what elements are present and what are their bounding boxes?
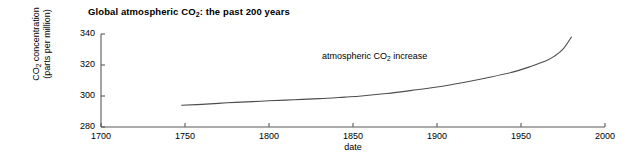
y-tick-label: 320 bbox=[65, 59, 95, 69]
series-annotation: atmospheric CO2 increase bbox=[322, 51, 427, 61]
data-series-line bbox=[182, 37, 572, 105]
x-axis-title-text: date bbox=[344, 142, 362, 152]
x-tick-label: 1750 bbox=[165, 131, 205, 141]
series-annotation-subscript: 2 bbox=[387, 55, 391, 62]
y-axis-title-line1: CO2 concentration bbox=[31, 7, 43, 81]
y-axis-title-line2: (parts per million) bbox=[42, 9, 54, 79]
plot-area: CO2 concentration (parts per million) da… bbox=[0, 0, 642, 160]
y-tick-label: 300 bbox=[65, 90, 95, 100]
x-tick-label: 1700 bbox=[81, 131, 121, 141]
series-annotation-post: increase bbox=[391, 51, 428, 61]
y-axis-title-subscript: 2 bbox=[35, 64, 42, 68]
x-tick-label: 1900 bbox=[417, 131, 457, 141]
y-axis-title: CO2 concentration (parts per million) bbox=[28, 0, 56, 124]
series-group bbox=[182, 37, 572, 105]
x-axis-title: date bbox=[0, 142, 642, 152]
series-annotation-pre: atmospheric CO bbox=[322, 51, 387, 61]
y-axis-title-pre: CO bbox=[31, 67, 41, 81]
x-tick-label: 1950 bbox=[501, 131, 541, 141]
y-tick-label: 340 bbox=[65, 28, 95, 38]
y-tick-label: 280 bbox=[65, 121, 95, 131]
y-axis-title-post: concentration bbox=[31, 7, 41, 64]
x-tick-label: 1850 bbox=[333, 131, 373, 141]
axes-group bbox=[101, 34, 605, 127]
x-tick-label: 2000 bbox=[585, 131, 625, 141]
co2-chart-figure: Global atmospheric CO2: the past 200 yea… bbox=[0, 0, 642, 160]
x-tick-label: 1800 bbox=[249, 131, 289, 141]
